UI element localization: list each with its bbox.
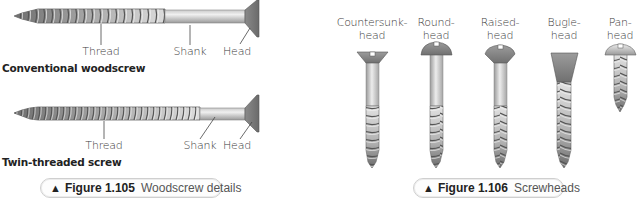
conventional-woodscrew-title: Conventional woodscrew <box>2 62 145 74</box>
figure-105-caption: ▲ Figure 1.105 Woodscrew details <box>40 178 222 198</box>
thread-label-conventional: Thread <box>82 45 119 58</box>
label-line: Round- <box>418 16 455 29</box>
countersunk-head-label: Countersunk- head <box>337 16 407 42</box>
head-label-conventional: Head <box>223 45 251 58</box>
bugle-head-screw-drawing <box>551 53 578 168</box>
label-line: Bugle- <box>548 16 581 29</box>
figure-number: Figure 1.105 <box>65 181 135 195</box>
raised-head-screw-drawing <box>485 45 515 168</box>
twin-threaded-screw-title: Twin-threaded screw <box>2 156 122 168</box>
conventional-woodscrew-drawing <box>14 0 259 45</box>
thread-label-twin: Thread <box>85 139 122 152</box>
figure-title: Woodscrew details <box>141 181 242 195</box>
shank-label-twin: Shank <box>183 139 216 152</box>
countersunk-head-screw-drawing <box>357 52 388 168</box>
label-line: head <box>481 29 520 42</box>
pan-head-label: Pan- head <box>607 16 633 42</box>
figure-number: Figure 1.106 <box>438 181 508 195</box>
triangle-marker-icon: ▲ <box>50 182 61 194</box>
figure-title: Screwheads <box>514 181 580 195</box>
label-line: head <box>337 29 407 42</box>
shank-label-conventional: Shank <box>173 45 206 58</box>
label-line: Raised- <box>481 16 520 29</box>
label-line: Pan- <box>607 16 633 29</box>
round-head-label: Round- head <box>418 16 455 42</box>
triangle-marker-icon: ▲ <box>423 182 434 194</box>
label-line: head <box>548 29 581 42</box>
head-label-twin: Head <box>223 139 251 152</box>
round-head-screw-drawing <box>421 42 452 168</box>
figure-106-caption: ▲ Figure 1.106 Screwheads <box>413 178 564 198</box>
raised-head-label: Raised- head <box>481 16 520 42</box>
bugle-head-label: Bugle- head <box>548 16 581 42</box>
twin-threaded-screw-drawing <box>14 95 259 139</box>
label-line: head <box>607 29 633 42</box>
pan-head-screw-drawing <box>605 44 636 112</box>
label-line: Countersunk- <box>337 16 407 29</box>
label-line: head <box>418 29 455 42</box>
